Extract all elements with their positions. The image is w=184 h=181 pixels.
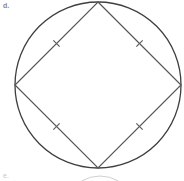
inscribed-square-shape	[15, 2, 181, 168]
next-figure-partial-arc-icon	[82, 176, 119, 181]
geometry-figure-container: d. e.	[0, 0, 184, 181]
next-figure-item-label: e.	[3, 172, 9, 179]
tick-mark-group	[53, 40, 142, 129]
inscribed-square-diagram	[0, 0, 184, 181]
circle-shape	[15, 2, 181, 168]
